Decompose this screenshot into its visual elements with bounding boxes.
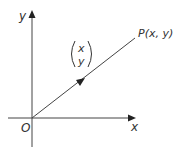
column-vector: x y <box>72 41 92 68</box>
vector-direction-arrow-icon <box>76 78 85 86</box>
origin-label: O <box>21 121 30 135</box>
y-axis-arrow-icon <box>29 10 36 18</box>
left-paren-icon <box>72 41 76 67</box>
right-paren-icon <box>88 41 92 67</box>
vector-x-component: x <box>77 42 85 55</box>
y-axis-label: y <box>18 9 27 23</box>
x-axis-label: x <box>130 120 139 134</box>
point-p-label: P(x, y) <box>138 27 173 40</box>
vector-y-component: y <box>77 55 85 68</box>
position-vector-diagram: y O x P(x, y) x y <box>0 0 182 150</box>
